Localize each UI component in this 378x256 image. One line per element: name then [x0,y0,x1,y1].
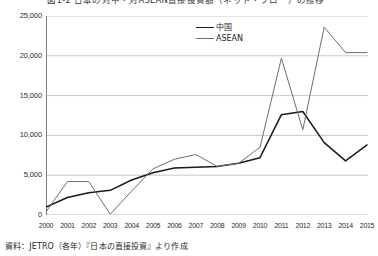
chart-legend: 中国ASEAN [196,22,243,44]
chart-title: 図1-2 日本の対中・対ASEAN直接投資額（ネット・フロー）の推移 [0,0,372,5]
legend-item-ASEAN: ASEAN [196,33,243,44]
x-axis-tick-label: 2013 [313,222,335,229]
y-axis-tick-label: 20,000 [0,51,42,60]
x-axis-tick-label: 2012 [292,222,314,229]
legend-item-中国: 中国 [196,22,243,33]
x-axis-tick-label: 2009 [228,222,250,229]
y-axis-tick-label: 0 [0,210,42,219]
y-axis-tick-label: 25,000 [0,11,42,20]
x-axis-tick-label: 2008 [206,222,228,229]
legend-label: ASEAN [216,33,243,44]
x-axis-tick-label: 2011 [270,222,292,229]
series-line-ASEAN [46,27,367,214]
plot-svg [46,16,368,215]
source-note: 資料：JETRO（各年）『日本の直接投資』より作成 [5,240,188,251]
x-axis-tick-label: 2007 [185,222,207,229]
x-axis-tick-label: 2001 [56,222,78,229]
plot-area [46,16,368,215]
series-line-中国 [46,112,367,208]
y-axis-tick-label: 5,000 [0,170,42,179]
legend-label: 中国 [216,22,232,33]
y-axis-tick-label: 15,000 [0,91,42,100]
x-axis-tick-label: 2000 [35,222,57,229]
x-axis-tick-label: 2015 [356,222,378,229]
x-axis-tick-label: 2005 [142,222,164,229]
legend-swatch-icon [196,27,214,28]
legend-swatch-icon [196,38,214,39]
x-axis-tick-label: 2004 [121,222,143,229]
x-axis-tick-label: 2014 [335,222,357,229]
x-axis-tick-label: 2010 [249,222,271,229]
x-axis-tick-label: 2003 [99,222,121,229]
x-axis-tick-label: 2002 [78,222,100,229]
y-axis-tick-label: 10,000 [0,130,42,139]
x-axis-tick-label: 2006 [163,222,185,229]
